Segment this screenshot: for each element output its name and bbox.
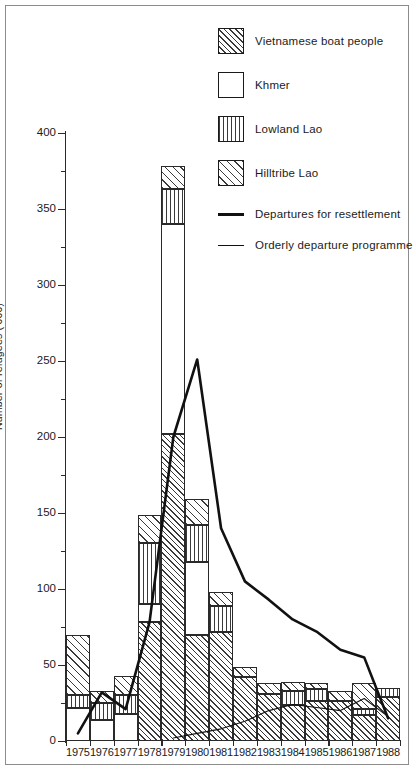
y-tick-minor bbox=[61, 475, 65, 476]
y-tick-major bbox=[58, 133, 65, 134]
bar-segment-hill bbox=[209, 592, 233, 606]
bar-1978[interactable] bbox=[138, 515, 162, 741]
x-tick-label: 1977 bbox=[113, 746, 139, 758]
bar-segment-viet bbox=[352, 715, 376, 741]
bar-segment-lowland bbox=[305, 689, 329, 701]
y-tick-minor bbox=[61, 703, 65, 704]
bar-1981[interactable] bbox=[209, 592, 233, 741]
y-tick-label: 50 bbox=[0, 658, 56, 670]
legend-item-khmer: Khmer bbox=[218, 72, 408, 98]
bar-segment-khmer bbox=[138, 604, 162, 622]
bar-segment-lowland bbox=[185, 525, 209, 561]
bar-segment-hill bbox=[352, 683, 376, 709]
bar-1977[interactable] bbox=[114, 676, 138, 741]
x-tick-label: 1985 bbox=[304, 746, 330, 758]
y-tick-label: 350 bbox=[0, 202, 56, 214]
bar-segment-viet bbox=[233, 677, 257, 741]
bar-1988[interactable] bbox=[376, 688, 400, 741]
bar-1979[interactable] bbox=[161, 166, 185, 741]
y-tick-major bbox=[58, 437, 65, 438]
x-tick-label: 1976 bbox=[89, 746, 115, 758]
legend-item-vietnamese-boat-people: Vietnamese boat people bbox=[218, 28, 408, 54]
bar-1975[interactable] bbox=[66, 635, 90, 741]
bar-segment-khmer bbox=[90, 720, 114, 741]
bar-segment-khmer bbox=[66, 708, 90, 741]
bar-segment-viet bbox=[161, 434, 185, 741]
bar-segment-lowland bbox=[376, 688, 400, 697]
bar-segment-khmer bbox=[185, 562, 209, 635]
x-tick-label: 1978 bbox=[137, 746, 163, 758]
bar-segment-viet bbox=[257, 694, 281, 741]
legend-label: Khmer bbox=[255, 79, 290, 91]
y-tick-major bbox=[58, 513, 65, 514]
x-tick-label: 1975 bbox=[65, 746, 91, 758]
x-tick-label: 1983 bbox=[256, 746, 282, 758]
x-tick-label: 1982 bbox=[232, 746, 258, 758]
bar-segment-hill bbox=[305, 683, 329, 689]
y-tick-label: 150 bbox=[0, 506, 56, 518]
y-tick-major bbox=[58, 285, 65, 286]
bar-segment-viet bbox=[305, 701, 329, 741]
bar-1983[interactable] bbox=[257, 683, 281, 741]
y-tick-label: 300 bbox=[0, 278, 56, 290]
y-tick-minor bbox=[61, 551, 65, 552]
plot-area bbox=[66, 133, 400, 741]
y-tick-label: 0 bbox=[0, 734, 56, 746]
bar-segment-hill bbox=[66, 635, 90, 696]
bar-1986[interactable] bbox=[328, 691, 352, 741]
y-tick-minor bbox=[61, 247, 65, 248]
bar-segment-hill bbox=[257, 683, 281, 694]
bar-segment-viet bbox=[376, 697, 400, 741]
bar-1985[interactable] bbox=[305, 683, 329, 741]
bar-segment-lowland bbox=[161, 189, 185, 224]
bar-segment-viet bbox=[328, 701, 352, 741]
bar-segment-lowland bbox=[209, 606, 233, 632]
bar-segment-lowland bbox=[66, 695, 90, 707]
bar-segment-hill bbox=[185, 499, 209, 525]
bar-1976[interactable] bbox=[90, 679, 114, 741]
legend-swatch-khmer-icon bbox=[218, 72, 244, 98]
bar-1987[interactable] bbox=[352, 683, 376, 741]
x-tick-label: 1986 bbox=[327, 746, 353, 758]
bar-segment-lowland bbox=[352, 709, 376, 715]
legend-swatch-vietnamese-icon bbox=[218, 28, 244, 54]
bar-1984[interactable] bbox=[281, 682, 305, 741]
bar-segment-hill bbox=[161, 166, 185, 189]
y-tick-major bbox=[58, 209, 65, 210]
bar-segment-hill bbox=[90, 691, 114, 703]
bar-segment-viet bbox=[138, 622, 162, 741]
y-tick-major bbox=[58, 361, 65, 362]
bar-segment-lowland bbox=[138, 543, 162, 604]
y-tick-major bbox=[58, 665, 65, 666]
x-tick bbox=[400, 741, 401, 746]
bar-1980[interactable] bbox=[185, 499, 209, 741]
bar-segment-viet bbox=[209, 632, 233, 741]
y-tick-label: 100 bbox=[0, 582, 56, 594]
bar-segment-khmer bbox=[114, 714, 138, 741]
bar-segment-lowland bbox=[90, 703, 114, 720]
bar-segment-viet bbox=[185, 635, 209, 741]
y-axis-labels: 050100150200250300350400 bbox=[0, 0, 56, 772]
x-tick-label: 1988 bbox=[375, 746, 401, 758]
bar-segment-viet bbox=[281, 705, 305, 741]
x-tick-label: 1981 bbox=[208, 746, 234, 758]
bar-segment-hill bbox=[328, 691, 352, 702]
chart-page: Vietnamese boat people Khmer Lowland Lao… bbox=[0, 0, 416, 772]
y-tick-label: 200 bbox=[0, 430, 56, 442]
y-tick-label: 250 bbox=[0, 354, 56, 366]
y-tick-minor bbox=[61, 399, 65, 400]
y-tick-major bbox=[58, 589, 65, 590]
bar-1982[interactable] bbox=[233, 667, 257, 741]
x-tick-label: 1984 bbox=[280, 746, 306, 758]
bar-segment-hill bbox=[233, 667, 257, 678]
y-tick-minor bbox=[61, 323, 65, 324]
y-tick-minor bbox=[61, 171, 65, 172]
legend-label: Vietnamese boat people bbox=[255, 35, 383, 47]
y-axis-title: Number of refugees ('000) bbox=[0, 303, 4, 430]
x-tick-label: 1979 bbox=[160, 746, 186, 758]
x-tick-label: 1980 bbox=[184, 746, 210, 758]
bar-segment-lowland bbox=[114, 695, 138, 713]
y-tick-minor bbox=[61, 627, 65, 628]
y-tick-major bbox=[58, 741, 65, 742]
bar-segment-hill bbox=[114, 676, 138, 696]
